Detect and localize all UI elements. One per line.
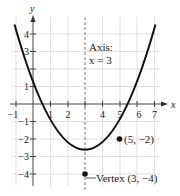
axis-annotation-line1: Axis: <box>89 41 113 53</box>
svg-text:6: 6 <box>137 109 142 120</box>
svg-text:1: 1 <box>24 81 29 92</box>
svg-text:4: 4 <box>100 109 105 120</box>
axes <box>10 20 163 186</box>
x-axis-label: x <box>170 99 176 110</box>
svg-text:7: 7 <box>152 109 157 120</box>
svg-text:−3: −3 <box>18 151 29 162</box>
vertex-point <box>82 171 88 177</box>
vertex-label: Vertex (3, −4) <box>96 172 158 185</box>
parabola-chart: x y −1 1 2 4 5 6 7 4 3 1 −1 −2 −3 −4 Axi… <box>0 0 180 196</box>
y-axis-label: y <box>29 3 35 14</box>
point-5-neg2 <box>117 136 123 142</box>
y-axis-arrow-icon <box>31 15 36 22</box>
svg-text:2: 2 <box>66 109 71 120</box>
svg-text:−1: −1 <box>18 116 29 127</box>
svg-text:−1: −1 <box>8 109 19 120</box>
x-tick-labels: −1 1 2 4 5 6 7 <box>8 109 157 120</box>
svg-text:4: 4 <box>24 29 29 40</box>
svg-text:−4: −4 <box>18 169 29 180</box>
x-axis-arrow-icon <box>161 102 168 107</box>
grid <box>12 17 160 186</box>
svg-text:−2: −2 <box>18 134 29 145</box>
axis-annotation-line2: x = 3 <box>89 54 112 66</box>
point-label: (5, −2) <box>124 133 154 146</box>
